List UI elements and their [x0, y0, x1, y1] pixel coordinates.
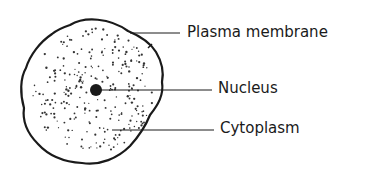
- label-cytoplasm: Cytoplasm: [220, 121, 300, 136]
- label-nucleus: Nucleus: [218, 81, 278, 96]
- label-plasma-membrane: Plasma membrane: [187, 25, 328, 40]
